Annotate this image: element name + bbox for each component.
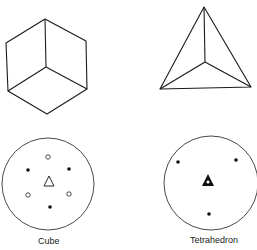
- tetrahedron-stereogram: [164, 136, 257, 230]
- filled-triangle-icon: [202, 174, 214, 186]
- filled-dot-icon: [67, 167, 71, 171]
- filled-dot-icon: [207, 212, 211, 216]
- filled-dot-icon: [176, 160, 180, 164]
- cube-label: Cube: [38, 236, 60, 246]
- open-dot-icon: [67, 192, 71, 196]
- triangle-center-dot-icon: [207, 181, 210, 184]
- cube-stereogram: [2, 138, 94, 230]
- open-dot-icon: [26, 193, 30, 197]
- cube-drawing: [6, 19, 87, 114]
- filled-dot-icon: [48, 205, 52, 209]
- open-dot-icon: [46, 155, 50, 159]
- tetrahedron-drawing: [160, 7, 251, 89]
- tetrahedron-label: Tetrahedron: [190, 235, 238, 245]
- filled-dot-icon: [234, 158, 238, 162]
- filled-dot-icon: [26, 168, 30, 172]
- crystal-symmetry-diagram: [0, 0, 257, 250]
- open-triangle-icon: [44, 176, 54, 186]
